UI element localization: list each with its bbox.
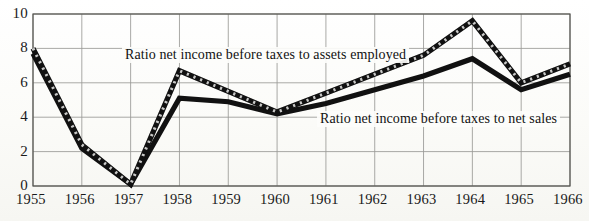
x-axis-tick-label: 1965 bbox=[504, 192, 534, 207]
series-group bbox=[33, 21, 570, 184]
series-annotation-net-sales: Ratio net income before taxes to net sal… bbox=[317, 111, 560, 127]
y-axis-tick-label: 6 bbox=[2, 75, 28, 90]
series-annotation-assets-employed: Ratio net income before taxes to assets … bbox=[122, 47, 409, 63]
series-line-overlay bbox=[33, 21, 570, 184]
x-axis-tick-label: 1960 bbox=[260, 192, 290, 207]
x-axis-tick-label: 1962 bbox=[358, 192, 388, 207]
chart-container: 1086420 19551956195719581959196019611962… bbox=[0, 0, 589, 221]
x-axis-tick-label: 1964 bbox=[455, 192, 485, 207]
x-axis-tick-label: 1959 bbox=[211, 192, 241, 207]
x-axis-tick-label: 1956 bbox=[65, 192, 95, 207]
x-axis-tick-label: 1957 bbox=[114, 192, 144, 207]
x-axis-tick-label: 1961 bbox=[309, 192, 339, 207]
y-axis-tick-label: 10 bbox=[2, 6, 28, 21]
x-axis-tick-label: 1955 bbox=[16, 192, 46, 207]
y-axis-tick-label: 8 bbox=[2, 40, 28, 55]
x-axis-tick-label: 1963 bbox=[407, 192, 437, 207]
y-axis-tick-label: 4 bbox=[2, 109, 28, 124]
x-axis-tick-label: 1958 bbox=[162, 192, 192, 207]
y-axis-tick-label: 2 bbox=[2, 144, 28, 159]
x-axis-tick-label: 1966 bbox=[553, 192, 583, 207]
